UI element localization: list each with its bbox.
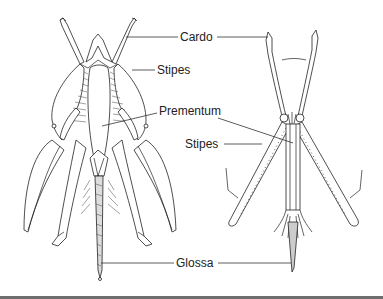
label-cardo: Cardo (179, 31, 214, 43)
right-specimen (226, 30, 362, 272)
label-prementum: Prementum (158, 105, 222, 117)
diagram-figure: Cardo Stipes Prementum Stipes Glossa (0, 0, 383, 299)
left-specimen (24, 18, 176, 281)
label-stipes-lower: Stipes (184, 138, 219, 150)
label-stipes-upper: Stipes (156, 64, 191, 76)
label-glossa: Glossa (175, 257, 214, 269)
